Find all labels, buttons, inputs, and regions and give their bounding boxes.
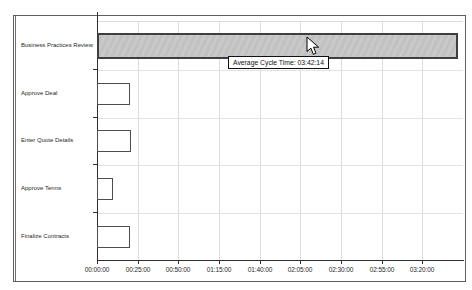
x-axis-tick-label: 00:00:00	[75, 266, 119, 273]
x-axis-tick-label: 02:05:00	[278, 266, 322, 273]
x-axis-tick-label: 02:55:00	[360, 266, 404, 273]
bar-enter-quote-details[interactable]	[97, 130, 131, 152]
x-axis-tick	[260, 261, 261, 264]
category-label-approve-terms: Approve Terms	[14, 164, 96, 212]
x-axis-tick-label: 01:15:00	[197, 266, 241, 273]
x-axis-tick-label: 00:25:00	[116, 266, 160, 273]
x-axis-tick-label: 00:50:00	[156, 266, 200, 273]
category-label-business-practices-review: Business Practices Review	[14, 21, 96, 69]
x-axis-tick-label: 03:20:00	[400, 266, 444, 273]
bar-row	[97, 118, 463, 166]
category-label-enter-quote-details: Enter Quote Details	[14, 117, 96, 165]
category-label-finalize-contracts: Finalize Contracts	[14, 212, 96, 260]
x-axis-tick	[97, 261, 98, 264]
x-axis-tick-label: 02:30:00	[319, 266, 363, 273]
y-axis-category-labels: Business Practices ReviewApprove DealEnt…	[14, 21, 96, 260]
tooltip-text: Average Cycle Time: 03:42:14	[233, 59, 324, 66]
category-label-approve-deal: Approve Deal	[14, 69, 96, 117]
mouse-cursor-icon	[306, 36, 320, 56]
bar-finalize-contracts[interactable]	[97, 226, 130, 248]
tooltip: Average Cycle Time: 03:42:14	[228, 56, 329, 69]
bar-approve-deal[interactable]	[97, 83, 130, 105]
bar-approve-terms[interactable]	[97, 178, 113, 200]
x-axis-tick	[382, 261, 383, 264]
x-axis-tick	[300, 261, 301, 264]
x-axis-tick	[422, 261, 423, 264]
bar-row	[97, 165, 463, 213]
x-axis-tick	[341, 261, 342, 264]
cycle-time-report-page: Business Practices ReviewApprove DealEnt…	[0, 0, 472, 290]
x-axis-tick	[219, 261, 220, 264]
x-axis-tick-label: 01:40:00	[238, 266, 282, 273]
bar-row	[97, 213, 463, 261]
bar-row	[97, 70, 463, 118]
bar-business-practices-review[interactable]	[97, 33, 458, 59]
x-axis-tick	[178, 261, 179, 264]
x-axis-tick	[138, 261, 139, 264]
